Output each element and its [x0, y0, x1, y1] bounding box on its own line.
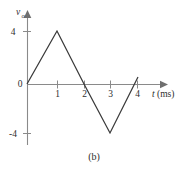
y-axis-arrow-icon — [24, 10, 32, 18]
x-axis-arrow-icon — [160, 81, 168, 89]
x-axis-unit: (ms) — [157, 89, 174, 100]
x-axis-symbol: t — [152, 89, 155, 99]
y-tick-label-four: 4 — [11, 27, 16, 37]
plot-canvas: v o 4 0 -4 1 2 3 4 t (ms) — [0, 0, 188, 173]
x-tick-label-four: 4 — [135, 89, 140, 99]
x-tick-label-two: 2 — [82, 89, 87, 99]
x-tick-label-one: 1 — [55, 89, 60, 99]
waveform-trace — [27, 31, 138, 133]
y-axis-symbol: v — [16, 7, 21, 17]
waveform-figure: v o 4 0 -4 1 2 3 4 t (ms) (b) — [0, 0, 188, 173]
x-tick-label-three: 3 — [108, 89, 113, 99]
y-tick-label-zero: 0 — [18, 79, 23, 89]
y-tick-label-negative-four: -4 — [9, 129, 17, 139]
figure-caption: (b) — [0, 151, 188, 162]
